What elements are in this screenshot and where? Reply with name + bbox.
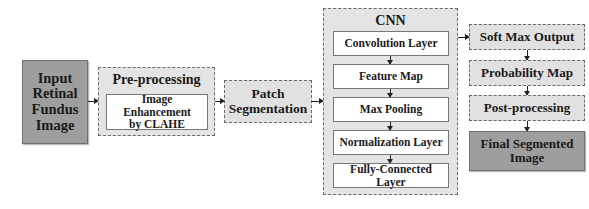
softmax-label: Soft Max Output	[480, 30, 575, 44]
input-line-1: Input	[38, 71, 73, 87]
probability-label: Probability Map	[481, 66, 573, 80]
cnn-layer-convolution: Convolution Layer	[333, 31, 449, 56]
clahe-line-2: by CLAHE	[129, 118, 185, 130]
cnn-layer-normalization: Normalization Layer	[333, 130, 449, 155]
final-line-2: Image	[510, 151, 545, 165]
preprocessing-title: Pre-processing	[99, 72, 214, 88]
arrow-cnn-4	[390, 155, 391, 163]
clahe-line-1: Image Enhancement	[107, 93, 207, 118]
patch-line-1: Patch	[252, 87, 285, 102]
arrow-cnn-3	[390, 122, 391, 130]
input-line-2: Retinal	[32, 86, 77, 102]
arrow-softmax-to-probability	[527, 50, 528, 60]
cnn-layer-fully-connected: Fully-Connected Layer	[333, 163, 449, 188]
input-line-4: Image	[36, 118, 75, 134]
arrow-input-to-preprocessing	[88, 101, 98, 102]
cnn-layer-label: Max Pooling	[360, 103, 422, 115]
arrow-probability-to-postprocessing	[527, 86, 528, 95]
softmax-output-node: Soft Max Output	[469, 24, 585, 50]
cnn-layer-label: Normalization Layer	[339, 136, 442, 148]
arrow-preprocessing-to-patch	[215, 101, 224, 102]
cnn-layer-feature-map: Feature Map	[333, 64, 449, 89]
cnn-layer-max-pooling: Max Pooling	[333, 97, 449, 122]
cnn-layer-label: Fully-Connected Layer	[334, 163, 448, 188]
cnn-layer-label: Feature Map	[359, 70, 423, 82]
patch-segmentation-node: Patch Segmentation	[224, 80, 312, 123]
arrow-cnn-2	[390, 89, 391, 97]
postprocessing-label: Post-processing	[484, 101, 570, 115]
final-line-1: Final Segmented	[481, 137, 574, 151]
arrow-postprocessing-to-final	[527, 121, 528, 131]
input-line-3: Fundus	[32, 102, 79, 118]
arrow-cnn-1	[390, 56, 391, 64]
clahe-node: Image Enhancement by CLAHE	[106, 94, 208, 130]
cnn-title: CNN	[324, 13, 457, 29]
probability-map-node: Probability Map	[469, 60, 585, 86]
final-segmented-image-node: Final Segmented Image	[469, 131, 585, 171]
cnn-layer-label: Convolution Layer	[345, 37, 438, 49]
input-image-node: Input Retinal Fundus Image	[22, 60, 88, 144]
arrow-cnn-to-softmax	[458, 37, 469, 38]
arrow-patch-to-cnn	[312, 101, 323, 102]
post-processing-node: Post-processing	[469, 95, 585, 121]
patch-line-2: Segmentation	[229, 102, 308, 117]
